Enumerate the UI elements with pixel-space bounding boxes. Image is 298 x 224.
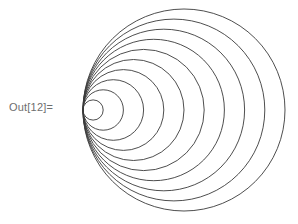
circle-5	[83, 60, 184, 161]
circle-7	[83, 39, 224, 180]
circle-9	[83, 19, 265, 201]
circle-1	[83, 100, 103, 120]
circle-3	[83, 80, 144, 141]
circles-graphic[interactable]	[0, 0, 298, 224]
